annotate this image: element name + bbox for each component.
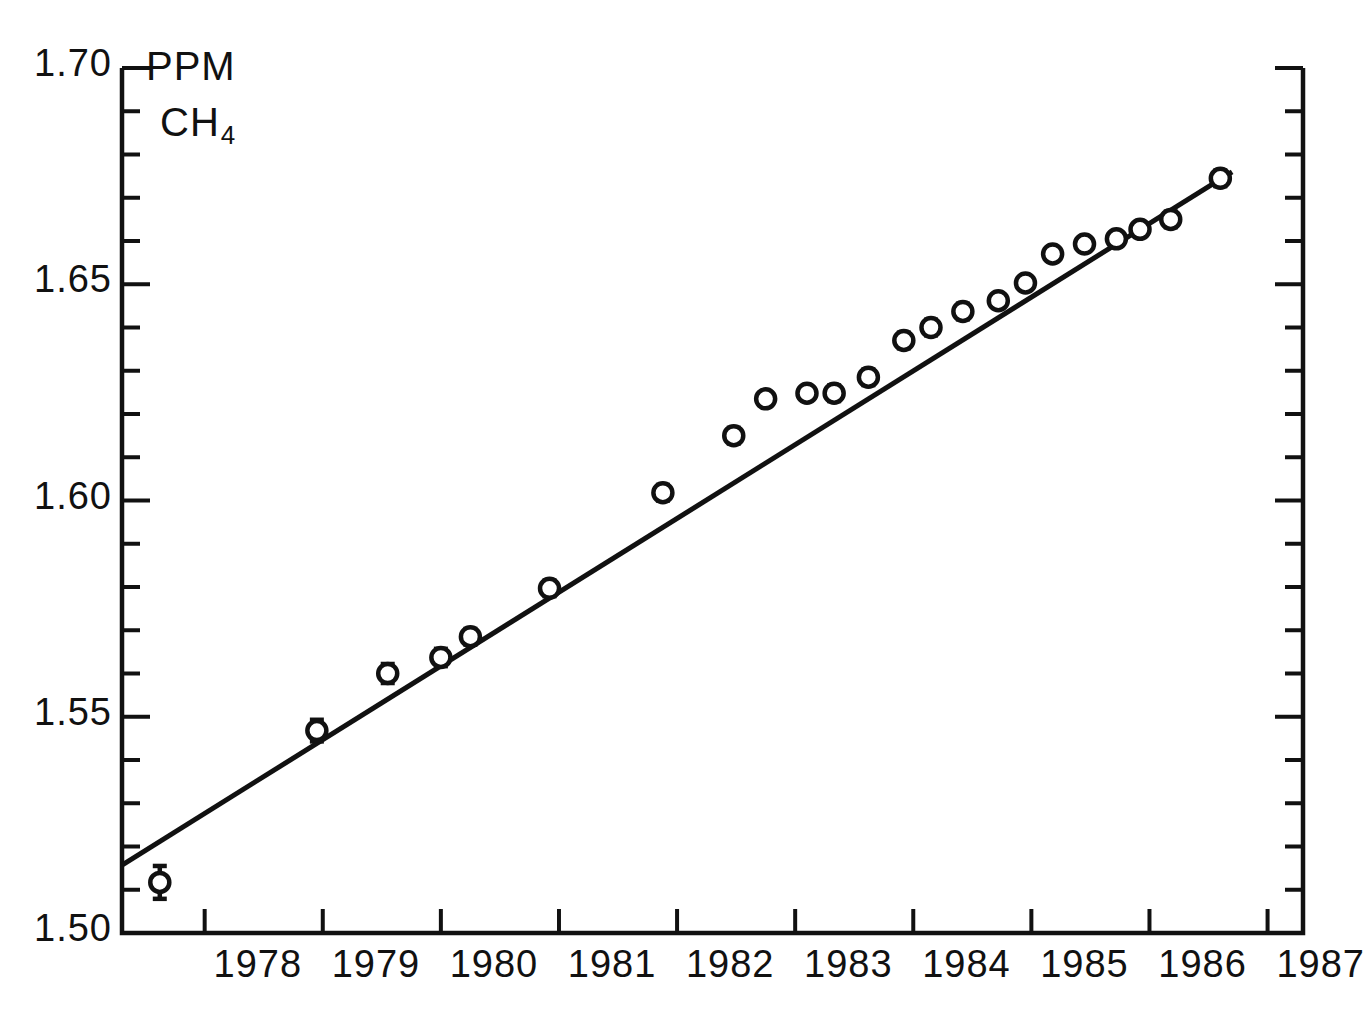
y-axis-tick-label: 1.55 [4,691,112,734]
species-text: CH [160,100,220,144]
y-axis-tick-label: 1.60 [4,475,112,518]
error-bars [153,171,1228,899]
x-axis-tick-label: 1987 [1246,943,1367,986]
x-axis-ticks [205,909,1268,933]
axis-unit-label: PPM [146,44,236,89]
axis-species-label: CH4 [160,100,235,145]
y-axis-tick-label: 1.50 [4,907,112,950]
y-axis-ticks [122,68,1303,933]
axis-frame [122,68,1303,933]
trend-line [122,172,1232,865]
y-axis-tick-label: 1.70 [4,42,112,85]
species-subscript: 4 [221,120,236,150]
y-axis-tick-label: 1.65 [4,258,112,301]
